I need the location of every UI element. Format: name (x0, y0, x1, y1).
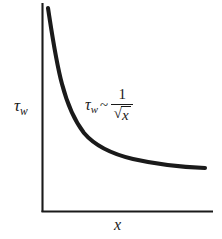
y-axis-label-subscript: w (20, 105, 28, 118)
x-axis-label: x (114, 217, 121, 233)
annotation-fraction: 1 √x (111, 87, 133, 124)
radical-icon: √ (114, 106, 122, 122)
annotation-lhs: τw (85, 97, 98, 115)
y-axis-label: τw (14, 97, 28, 117)
figure-container: τw x τw ~ 1 √x (0, 0, 222, 239)
annotation-relation-tilde: ~ (100, 98, 108, 113)
radicand: x (121, 106, 131, 124)
fraction-numerator: 1 (115, 87, 129, 103)
fraction-denominator: √x (112, 106, 133, 124)
curve-annotation: τw ~ 1 √x (85, 88, 133, 125)
annotation-tau-subscript: w (91, 104, 98, 116)
